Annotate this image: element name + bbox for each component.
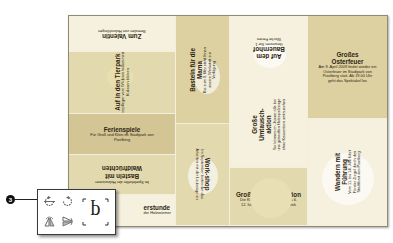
panel-body: Die Tierpfleger vom Wildpark lassen hint… bbox=[121, 52, 130, 114]
panel-body: Für Groß und Klein im Stadtpark von Pixe… bbox=[87, 133, 157, 142]
rotate-spread-ccw-button[interactable] bbox=[42, 194, 56, 208]
panel-grosse-umtauschaktion[interactable]: Große Umtausch-aktion Sie können im Janu… bbox=[230, 83, 308, 168]
panel-ferienspiele[interactable]: Ferienspiele Für Groß und Klein im Stadt… bbox=[69, 114, 176, 155]
panel-basteln-fuer-die-mama[interactable]: Basteln für die Mama Bis zum 9. Mai steh… bbox=[176, 16, 230, 124]
flip-horizontal-button[interactable] bbox=[42, 214, 56, 228]
panel-body: Gewinnen Sie 1 Woche Ferien bbox=[249, 37, 289, 46]
rotate-cw-icon bbox=[61, 195, 74, 208]
panel-body: Im September bieten wir das Arbeiten mit… bbox=[194, 148, 203, 201]
reference-point-preview[interactable]: p bbox=[82, 198, 109, 226]
panel-title: Großes Osterfeuer bbox=[322, 51, 374, 65]
flip-vertical-button[interactable] bbox=[60, 214, 74, 228]
rotate-ccw-icon bbox=[43, 195, 56, 208]
panel-body: Bis zum 9. Mai steht Ihnen unsere Werkst… bbox=[203, 43, 216, 96]
panel-title: Basteln für die Mama bbox=[189, 43, 203, 96]
panel-title: Wandern mit Führung bbox=[334, 148, 348, 196]
panel-body: Im Spielekeller der Holzwürmer bbox=[95, 179, 149, 183]
panel-title: Auf dem Bauernhof bbox=[249, 46, 289, 60]
panel-auf-in-den-tierpark[interactable]: Auf in den Tierpark Die Tierpfleger vom … bbox=[69, 52, 176, 114]
panel-body: Sie können im Januar alle bei uns gekauf… bbox=[273, 97, 286, 153]
rotated-p-preview-icon: p bbox=[82, 198, 109, 226]
panel-workshop[interactable]: Work-shop Im September bieten wir das Ar… bbox=[176, 124, 230, 226]
rotate-spread-cw-button[interactable] bbox=[60, 194, 74, 208]
document-page: Zum Valentin Bemalen von Holzrohlingen A… bbox=[68, 15, 388, 227]
callout-number: 3 bbox=[6, 195, 15, 204]
panel-title: Basteln mit Waldfrüchten bbox=[92, 165, 152, 179]
panel-body: Am 9. April 2009 findet wieder ein Oster… bbox=[319, 65, 377, 83]
panel-zum-valentin[interactable]: Zum Valentin Bemalen von Holzrohlingen bbox=[69, 16, 176, 52]
panel-body: Vom 11. bis 14. Juni führt Förster Ziege… bbox=[348, 146, 361, 198]
panel-title: Work-shop bbox=[203, 158, 210, 191]
flip-horizontal-icon bbox=[43, 215, 56, 228]
panel-body: der Holzwürmer bbox=[144, 211, 171, 215]
panel-auf-dem-bauernhof[interactable]: Auf dem Bauernhof Gewinnen Sie 1 Woche F… bbox=[230, 16, 308, 83]
flip-vertical-icon bbox=[61, 215, 74, 228]
panel-grosses-osterfeuer[interactable]: Großes Osterfeuer Am 9. April 2009 finde… bbox=[308, 16, 387, 119]
panel-grosse-nikolausaktion[interactable]: Große Nikolausaktion Die Kleinen können … bbox=[230, 168, 308, 226]
rotate-flip-toolbox: p bbox=[37, 189, 116, 235]
panel-wandern-mit-fuehrung[interactable]: Wandern mit Führung Vom 11. bis 14. Juni… bbox=[308, 119, 387, 226]
panel-title: Große Umtausch-aktion bbox=[251, 105, 273, 145]
panel-body: Bemalen von Holzrohlingen bbox=[98, 28, 146, 32]
